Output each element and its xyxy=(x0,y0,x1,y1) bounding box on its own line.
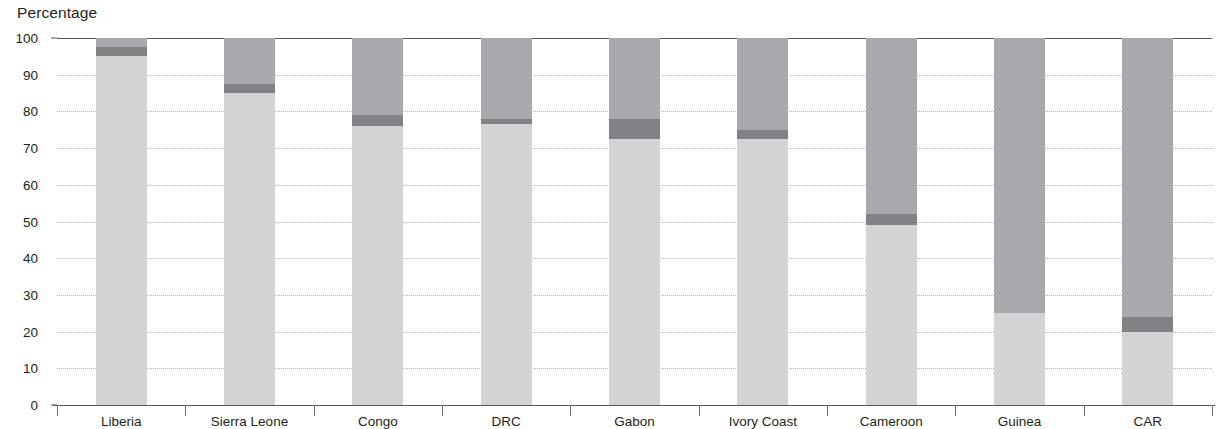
category-tick xyxy=(955,405,956,416)
bar-segment-dark[interactable] xyxy=(866,214,917,225)
bar-segment-dark[interactable] xyxy=(1122,317,1173,332)
bar-segment-light[interactable] xyxy=(96,56,147,405)
category-tick xyxy=(827,405,828,416)
bar-segment-dark[interactable] xyxy=(609,119,660,139)
category-tick xyxy=(57,405,58,416)
y-tick-label-40: 40 xyxy=(0,251,38,266)
bar-segment-light[interactable] xyxy=(224,93,275,405)
y-tick-mark-100 xyxy=(51,38,57,39)
stacked-bar[interactable] xyxy=(352,38,403,405)
bar-group[interactable] xyxy=(866,38,917,405)
bar-group[interactable] xyxy=(737,38,788,405)
bar-segment-light[interactable] xyxy=(866,225,917,405)
bar-segment-dark[interactable] xyxy=(224,84,275,93)
stacked-bar[interactable] xyxy=(1122,38,1173,405)
category-tick xyxy=(314,405,315,416)
bar-segment-dark[interactable] xyxy=(96,47,147,56)
stacked-bar[interactable] xyxy=(96,38,147,405)
bar-group[interactable] xyxy=(609,38,660,405)
y-tick-label-30: 30 xyxy=(0,287,38,302)
bar-segment-medium[interactable] xyxy=(737,38,788,130)
bar-group[interactable] xyxy=(994,38,1045,405)
bar-segment-light[interactable] xyxy=(352,126,403,405)
category-tick xyxy=(442,405,443,416)
category-label-congo: Congo xyxy=(358,414,398,429)
bar-group[interactable] xyxy=(96,38,147,405)
bar-segment-medium[interactable] xyxy=(994,38,1045,313)
bar-group[interactable] xyxy=(1122,38,1173,405)
bar-segment-medium[interactable] xyxy=(96,38,147,47)
category-label-cameroon: Cameroon xyxy=(860,414,923,429)
bar-segment-medium[interactable] xyxy=(224,38,275,84)
category-tick xyxy=(185,405,186,416)
y-tick-label-80: 80 xyxy=(0,104,38,119)
category-tick xyxy=(1212,405,1213,416)
bar-segment-medium[interactable] xyxy=(866,38,917,214)
category-label-drc: DRC xyxy=(492,414,521,429)
bar-segment-light[interactable] xyxy=(737,139,788,405)
y-tick-label-20: 20 xyxy=(0,324,38,339)
stacked-bar[interactable] xyxy=(481,38,532,405)
category-label-sierra-leone: Sierra Leone xyxy=(211,414,288,429)
bar-segment-light[interactable] xyxy=(609,139,660,405)
bar-group[interactable] xyxy=(224,38,275,405)
plot-area: 0102030405060708090100 xyxy=(57,38,1212,405)
stacked-bar[interactable] xyxy=(994,38,1045,405)
category-label-gabon: Gabon xyxy=(614,414,655,429)
category-label-ivory-coast: Ivory Coast xyxy=(729,414,797,429)
y-tick-label-50: 50 xyxy=(0,214,38,229)
bar-segment-dark[interactable] xyxy=(481,119,532,125)
bar-group[interactable] xyxy=(352,38,403,405)
y-tick-label-0: 0 xyxy=(0,398,38,413)
stacked-bar[interactable] xyxy=(609,38,660,405)
category-label-car: CAR xyxy=(1134,414,1163,429)
bar-segment-medium[interactable] xyxy=(481,38,532,119)
stacked-bar[interactable] xyxy=(224,38,275,405)
category-tick xyxy=(570,405,571,416)
bar-segment-dark[interactable] xyxy=(737,130,788,139)
y-tick-label-70: 70 xyxy=(0,141,38,156)
category-label-guinea: Guinea xyxy=(998,414,1042,429)
bar-segment-medium[interactable] xyxy=(1122,38,1173,317)
bar-segment-light[interactable] xyxy=(481,124,532,405)
y-axis-title: Percentage xyxy=(17,4,97,22)
y-tick-label-100: 100 xyxy=(0,31,38,46)
stacked-bar[interactable] xyxy=(866,38,917,405)
bar-segment-medium[interactable] xyxy=(352,38,403,115)
y-tick-label-10: 10 xyxy=(0,361,38,376)
bar-group[interactable] xyxy=(481,38,532,405)
y-tick-label-90: 90 xyxy=(0,67,38,82)
bar-segment-light[interactable] xyxy=(1122,332,1173,405)
category-tick xyxy=(699,405,700,416)
bar-segment-medium[interactable] xyxy=(609,38,660,119)
category-tick xyxy=(1084,405,1085,416)
bar-segment-light[interactable] xyxy=(994,313,1045,405)
category-axis: LiberiaSierra LeoneCongoDRCGabonIvory Co… xyxy=(53,405,1219,427)
stacked-bar[interactable] xyxy=(737,38,788,405)
category-label-liberia: Liberia xyxy=(101,414,142,429)
y-tick-label-60: 60 xyxy=(0,177,38,192)
bar-segment-dark[interactable] xyxy=(352,115,403,126)
